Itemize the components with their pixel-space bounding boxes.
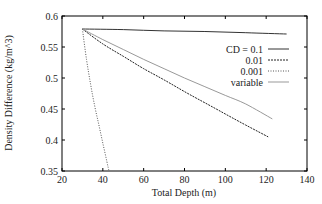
legend: CD = 0.10.010.001variable (226, 44, 289, 88)
y-tick-label: 0.5 (46, 73, 59, 84)
legend-label: variable (231, 77, 264, 88)
y-tick-label: 0.35 (41, 166, 59, 177)
series-line-cd-0-1 (82, 29, 286, 34)
legend-label: CD = 0.1 (226, 44, 263, 55)
y-tick-label: 0.6 (46, 11, 59, 22)
x-tick-label: 40 (98, 174, 108, 185)
x-tick-label: 120 (259, 174, 274, 185)
x-axis-ticks: 20406080100120140 (57, 16, 315, 185)
plot-frame (62, 16, 307, 171)
x-axis-label: Total Depth (m) (152, 187, 216, 199)
legend-label: 0.001 (241, 66, 264, 77)
x-tick-label: 100 (218, 174, 233, 185)
legend-label: 0.01 (246, 55, 264, 66)
y-axis-label: Density Difference (kg/m^3) (3, 35, 15, 151)
y-tick-label: 0.4 (46, 135, 59, 146)
y-tick-label: 0.55 (41, 42, 59, 53)
y-axis-ticks: 0.350.40.450.50.550.6 (41, 11, 308, 177)
x-tick-label: 60 (139, 174, 149, 185)
x-tick-label: 80 (180, 174, 190, 185)
line-chart: 0.350.40.450.50.550.6 20406080100120140 … (0, 0, 322, 204)
y-tick-label: 0.45 (41, 104, 59, 115)
series-line-0-001 (82, 29, 109, 171)
x-tick-label: 140 (300, 174, 315, 185)
x-tick-label: 20 (57, 174, 67, 185)
